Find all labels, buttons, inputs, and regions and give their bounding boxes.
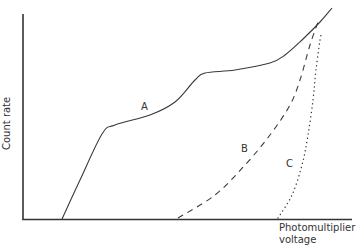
chart-canvas — [0, 0, 357, 248]
x-axis-label-line2: voltage — [279, 234, 355, 246]
curve-a-line — [62, 8, 332, 219]
x-axis-label: Photomultiplier voltage — [279, 222, 355, 246]
curve-label-c: C — [286, 158, 293, 169]
y-axis-label: Count rate — [1, 97, 12, 150]
curve-c-line — [278, 32, 322, 218]
curve-label-a: A — [141, 101, 148, 112]
x-axis-label-line1: Photomultiplier — [279, 222, 355, 234]
curve-label-b: B — [241, 143, 248, 154]
curve-b-line — [178, 22, 318, 218]
